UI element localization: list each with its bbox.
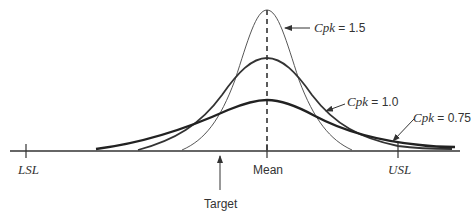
cpk-0-75-label: Cpk = 0.75 xyxy=(413,110,471,125)
lsl-label: LSL xyxy=(17,162,39,177)
cpk-1-0-pointer xyxy=(326,104,345,111)
target-label: Target xyxy=(204,197,238,211)
curve-cpk-0-75 xyxy=(96,100,455,149)
cpk-1-0-label: Cpk = 1.0 xyxy=(347,94,399,109)
cpk-0-75-pointer xyxy=(393,119,414,141)
usl-label: USL xyxy=(388,162,411,177)
capability-diagram: Cpk = 1.5 Cpk = 1.0 Cpk = 0.75 LSL Mean … xyxy=(0,0,472,219)
mean-label: Mean xyxy=(253,163,283,177)
cpk-1-5-label: Cpk = 1.5 xyxy=(314,20,366,35)
curve-cpk-1-0 xyxy=(138,58,452,150)
